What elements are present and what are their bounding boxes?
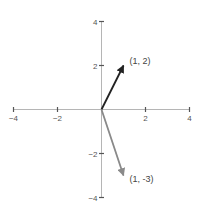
x-tick-label: −4: [9, 114, 19, 123]
x-tick-label: 4: [187, 114, 192, 123]
vector-arrow-2: [102, 110, 124, 176]
vector-label-2: (1, -3): [130, 174, 154, 184]
y-tick-label: 4: [93, 18, 98, 27]
y-tick-label: −2: [88, 150, 98, 159]
vector-diagram: −4−22442−2−4 (1, 2)(1, -3): [0, 0, 202, 212]
vector-arrow-1: [102, 66, 124, 110]
x-tick-label: 2: [143, 114, 148, 123]
y-tick-label: 2: [93, 62, 98, 71]
y-tick-label: −4: [88, 194, 98, 203]
x-tick-label: −2: [53, 114, 63, 123]
vector-label-1: (1, 2): [130, 56, 151, 66]
